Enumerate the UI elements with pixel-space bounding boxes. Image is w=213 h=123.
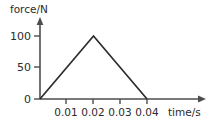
- y-tick-label-100: 100: [10, 30, 31, 43]
- y-axis-arrow-icon: [37, 17, 44, 25]
- x-tick-label-004: 0.04: [135, 106, 159, 118]
- y-tick-label-50: 50: [17, 61, 31, 74]
- x-tick-label-002: 0.02: [81, 106, 104, 118]
- x-axis-arrow-icon: [198, 96, 206, 103]
- x-tick-label-001: 0.01: [54, 106, 77, 118]
- force-pulse-series: [40, 36, 147, 99]
- x-axis-title: time/s: [168, 106, 201, 118]
- force-time-chart: 100 50 0 0.01 0.02 0.03 0.04 force/N tim…: [0, 0, 213, 123]
- y-axis-title: force/N: [10, 3, 48, 15]
- chart-canvas: 100 50 0 0.01 0.02 0.03 0.04 force/N tim…: [0, 0, 213, 123]
- x-tick-label-003: 0.03: [108, 106, 131, 118]
- y-tick-label-0: 0: [24, 93, 31, 106]
